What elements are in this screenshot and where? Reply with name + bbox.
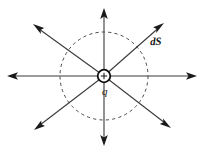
arrow-head-northwest-icon bbox=[33, 24, 44, 34]
field-line-southwest-shaft bbox=[40, 76, 104, 125]
field-line-northwest-shaft bbox=[39, 29, 104, 76]
charge-label: q bbox=[102, 86, 108, 97]
point-charge bbox=[98, 70, 111, 83]
field-line-northwest bbox=[33, 24, 104, 76]
field-line-north bbox=[100, 8, 108, 76]
field-line-southeast-shaft bbox=[104, 76, 165, 123]
field-line-east bbox=[104, 72, 197, 80]
field-line-southeast bbox=[104, 76, 171, 128]
electric-field-diagram: dS q bbox=[0, 0, 203, 153]
field-line-west bbox=[7, 72, 104, 80]
surface-element-label: dS bbox=[150, 36, 162, 47]
field-line-northeast bbox=[104, 23, 164, 76]
diagram-canvas bbox=[0, 0, 203, 153]
